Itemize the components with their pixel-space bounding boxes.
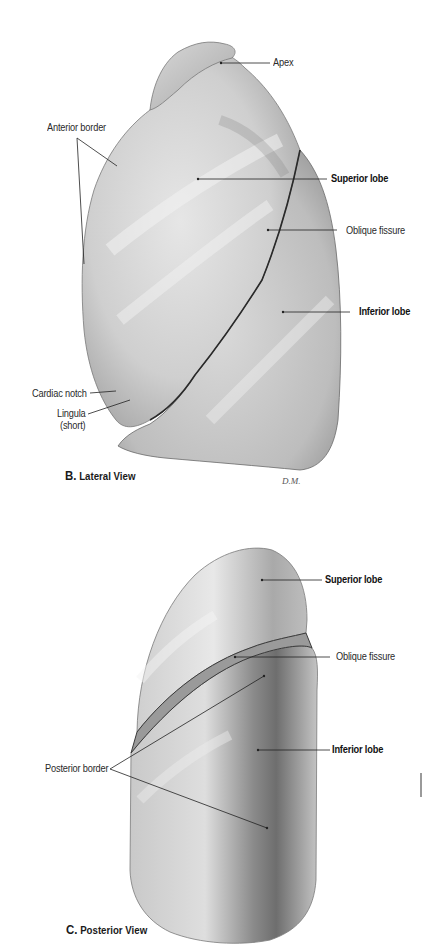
caption-letter: C.	[66, 922, 77, 937]
figure-posterior-view: Superior lobe Oblique fissure Inferior l…	[0, 500, 422, 948]
label-lingula: Lingula	[57, 407, 86, 419]
caption-posterior-view: C. Posterior View	[66, 922, 147, 937]
label-inferior-lobe-posterior: Inferior lobe	[332, 743, 383, 755]
label-anterior-border: Anterior border	[47, 121, 106, 133]
label-posterior-border: Posterior border	[45, 762, 108, 774]
label-superior-lobe-posterior: Superior lobe	[325, 573, 382, 585]
caption-letter: B.	[65, 468, 76, 483]
figure-lateral-view: D.M. Apex Anterior border Superior lobe …	[0, 0, 422, 500]
page-margin-mark	[420, 773, 422, 797]
label-cardiac-notch: Cardiac notch	[32, 387, 87, 399]
caption-text: Lateral View	[79, 470, 135, 482]
label-oblique-fissure: Oblique fissure	[346, 224, 405, 236]
label-lingula-short: (short)	[60, 419, 85, 431]
caption-text: Posterior View	[80, 924, 147, 936]
label-inferior-lobe: Inferior lobe	[359, 305, 410, 317]
label-superior-lobe: Superior lobe	[331, 172, 388, 184]
artist-signature: D.M.	[281, 476, 301, 486]
lung-posterior-illustration	[0, 500, 422, 948]
label-oblique-fissure-posterior: Oblique fissure	[336, 650, 395, 662]
caption-lateral-view: B. Lateral View	[65, 468, 135, 483]
label-apex: Apex	[273, 56, 293, 68]
